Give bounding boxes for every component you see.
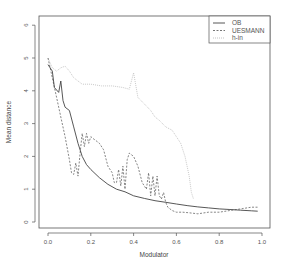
chart-container: 0.00.20.40.60.81.0 0123456 Modulator Mea… (0, 0, 284, 263)
legend-label: OB (232, 19, 241, 26)
y-tick-label: 0 (23, 220, 29, 224)
x-axis-title: Modulator (140, 251, 170, 258)
plot-frame (39, 16, 270, 228)
legend-label: UESMANN (232, 27, 265, 34)
y-tick-label: 5 (23, 56, 29, 60)
series-h-in (48, 58, 194, 199)
y-axis: 0123456 (23, 23, 35, 224)
y-tick-label: 6 (23, 23, 29, 27)
x-tick-label: 0.6 (172, 239, 181, 245)
y-tick-label: 3 (23, 121, 29, 125)
series-uesmann (48, 58, 258, 214)
legend: OBUESMANNh-in (209, 16, 270, 43)
y-tick-label: 2 (23, 154, 29, 158)
legend-label: h-in (232, 34, 243, 41)
x-tick-label: 1.0 (258, 239, 267, 245)
x-tick-label: 0.2 (87, 239, 96, 245)
x-tick-label: 0.4 (129, 239, 138, 245)
y-axis-title: Mean distance (5, 100, 12, 143)
y-tick-label: 4 (23, 88, 29, 92)
series-layer (48, 58, 258, 214)
x-tick-label: 0.8 (215, 239, 224, 245)
x-axis: 0.00.20.40.60.81.0 (44, 233, 267, 245)
x-tick-label: 0.0 (44, 239, 53, 245)
y-tick-label: 1 (23, 187, 29, 191)
series-ob (48, 65, 258, 212)
line-chart: 0.00.20.40.60.81.0 0123456 Modulator Mea… (0, 0, 284, 263)
